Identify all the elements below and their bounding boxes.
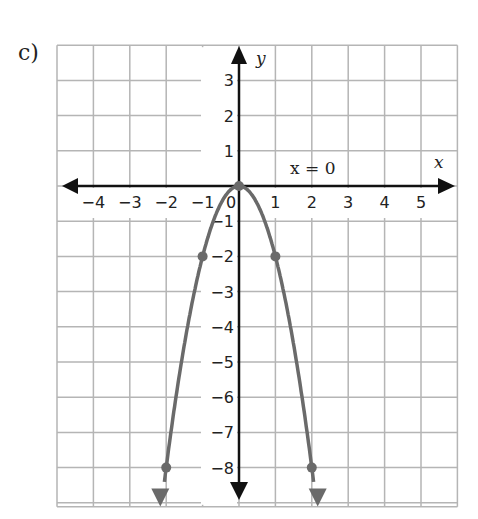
tick-labels: −4−3−2−1012345321−1−2−3−4−5−6−7−8 xyxy=(82,71,426,477)
svg-text:1: 1 xyxy=(270,193,280,212)
y-axis-label: y xyxy=(255,48,266,68)
svg-text:−2: −2 xyxy=(210,247,234,266)
svg-text:−4: −4 xyxy=(82,193,106,212)
svg-text:−7: −7 xyxy=(210,423,234,442)
x-axis-label: x xyxy=(434,152,444,172)
grid xyxy=(57,45,457,507)
svg-text:4: 4 xyxy=(380,193,390,212)
svg-text:2: 2 xyxy=(224,107,234,126)
svg-text:−3: −3 xyxy=(118,193,142,212)
svg-text:5: 5 xyxy=(416,193,426,212)
svg-text:3: 3 xyxy=(343,193,353,212)
svg-text:1: 1 xyxy=(224,142,234,161)
svg-text:−1: −1 xyxy=(191,193,215,212)
svg-text:2: 2 xyxy=(307,193,317,212)
parabola-graph: −4−3−2−1012345321−1−2−3−4−5−6−7−8 x = 0 … xyxy=(0,0,478,519)
svg-text:−5: −5 xyxy=(210,353,234,372)
svg-text:−2: −2 xyxy=(154,193,178,212)
svg-text:−6: −6 xyxy=(210,388,234,407)
svg-text:−4: −4 xyxy=(210,318,234,337)
svg-text:−8: −8 xyxy=(210,459,234,478)
axis-of-symmetry-label: x = 0 xyxy=(290,158,335,178)
svg-text:−3: −3 xyxy=(210,283,234,302)
svg-text:3: 3 xyxy=(224,71,234,90)
